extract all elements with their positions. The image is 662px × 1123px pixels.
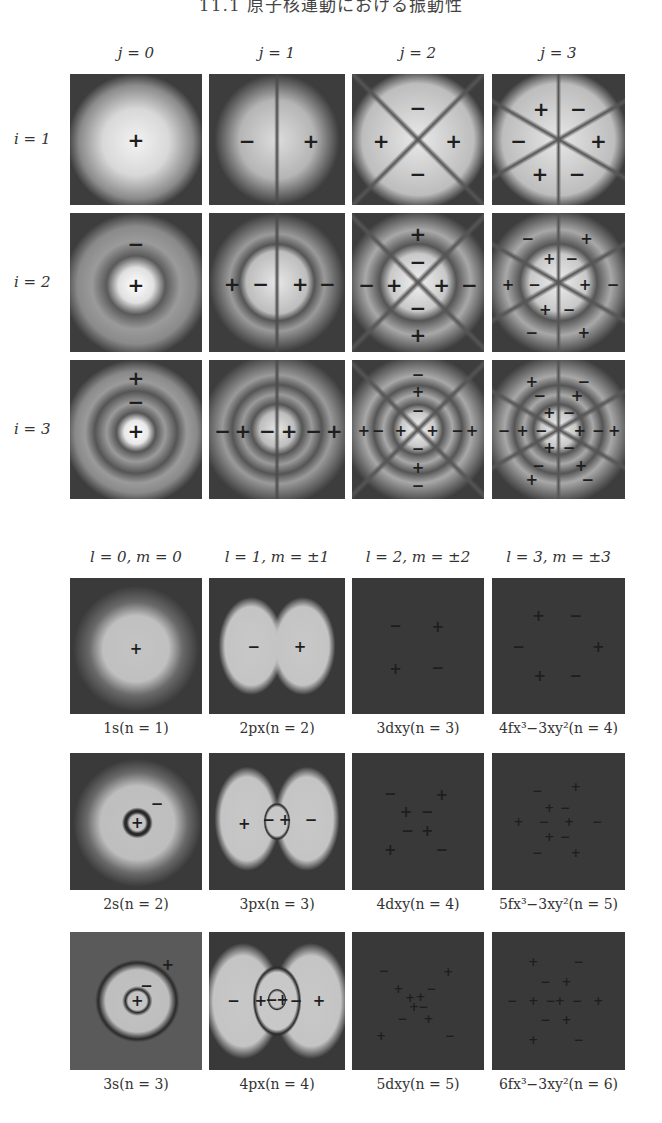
plus-sign: + [426, 423, 439, 438]
mode-panel-i1-j0: + [70, 74, 202, 205]
plus-sign: + [276, 992, 289, 1007]
plus-sign: + [412, 461, 425, 476]
minus-sign: − [573, 956, 583, 968]
plus-sign: + [564, 816, 574, 828]
minus-sign: − [445, 1030, 455, 1042]
plus-sign: + [412, 384, 425, 399]
plus-sign: + [516, 423, 529, 438]
plus-sign: + [384, 843, 397, 858]
row-label-i2: i = 2 [14, 273, 64, 291]
plus-sign: + [395, 423, 408, 438]
orbital-panel-2-2: −++−+++−−++− [352, 932, 484, 1070]
column-label-lm3: l = 3, m = ±3 [486, 548, 631, 566]
plus-sign: + [543, 440, 556, 455]
minus-sign: − [397, 1013, 407, 1025]
plus-sign: + [435, 788, 448, 803]
orbital-panel-2-1: −+−+−+ [209, 932, 345, 1070]
plus-sign: + [528, 956, 538, 968]
minus-sign: − [379, 965, 389, 977]
plus-sign: + [544, 831, 554, 843]
orbital-panel-0-0: + [70, 578, 202, 714]
plus-sign: + [544, 802, 554, 814]
orbital-panel-0-1: −+ [209, 578, 345, 714]
mode-panel-i1-j3: +−−++− [492, 74, 625, 205]
minus-sign: − [418, 1001, 428, 1013]
orbital-pattern [352, 578, 484, 714]
minus-sign: − [539, 816, 549, 828]
minus-sign: − [570, 99, 587, 119]
mode-panel-i2-j2: +−−++−−+ [352, 213, 484, 352]
minus-sign: − [410, 298, 427, 318]
minus-sign: − [528, 278, 541, 293]
orbital-pattern [352, 753, 484, 890]
plus-sign: + [593, 995, 603, 1007]
plus-sign: + [539, 303, 552, 318]
orbital-caption: 5dxy(n = 5) [343, 1076, 493, 1092]
mode-panel-i3-j0: +−+ [70, 360, 202, 499]
plus-sign: + [532, 609, 545, 624]
minus-sign: − [252, 274, 269, 294]
minus-sign: − [563, 303, 576, 318]
minus-sign: − [532, 847, 542, 859]
page-header: 11.1 原子核運動における振動性 [0, 0, 662, 16]
plus-sign: + [238, 817, 251, 832]
plus-sign: + [577, 325, 590, 340]
column-label-j3: j = 3 [492, 44, 625, 62]
column-label-j0: j = 0 [70, 44, 202, 62]
minus-sign: − [358, 275, 375, 295]
plus-sign: + [128, 421, 145, 441]
minus-sign: − [535, 423, 548, 438]
minus-sign: − [532, 785, 542, 797]
row-label-i3: i = 3 [14, 420, 64, 438]
plus-sign: + [128, 130, 145, 150]
plus-sign: + [528, 1034, 538, 1046]
orbital-panel-2-3: +−−+−+−+−+−++− [492, 932, 625, 1070]
orbital-panel-0-2: −++− [352, 578, 484, 714]
plus-sign: + [224, 274, 241, 294]
orbital-caption: 3dxy(n = 3) [343, 720, 493, 736]
plus-sign: + [502, 278, 515, 293]
plus-sign: + [571, 389, 584, 404]
minus-sign: − [305, 813, 318, 828]
minus-sign: − [248, 640, 261, 655]
mode-panel-i2-j3: −++−+−+−+−−+ [492, 213, 625, 352]
minus-sign: − [607, 278, 620, 293]
minus-sign: − [560, 831, 570, 843]
minus-sign: − [227, 994, 240, 1009]
plus-sign: + [543, 405, 556, 420]
plus-sign: + [443, 966, 453, 978]
plus-sign: + [531, 164, 548, 184]
column-label-lm2: l = 2, m = ±2 [346, 548, 490, 566]
plus-sign: + [128, 275, 145, 295]
plus-sign: + [393, 983, 403, 995]
minus-sign: − [239, 131, 256, 151]
minus-sign: − [426, 983, 436, 995]
plus-sign: + [534, 668, 547, 683]
plus-sign: + [592, 640, 605, 655]
minus-sign: − [592, 423, 605, 438]
minus-sign: − [451, 423, 464, 438]
minus-sign: − [563, 405, 576, 420]
minus-sign: − [410, 98, 427, 118]
orbital-caption: 1s(n = 1) [61, 720, 211, 736]
plus-sign: + [292, 274, 309, 294]
minus-sign: − [560, 802, 570, 814]
plus-sign: + [561, 976, 571, 988]
column-label-lm0: l = 0, m = 0 [64, 548, 208, 566]
minus-sign: − [581, 472, 594, 487]
plus-sign: + [579, 278, 592, 293]
minus-sign: − [412, 479, 425, 494]
mode-panel-i3-j1: −+−+−+ [209, 360, 345, 499]
minus-sign: − [566, 251, 579, 266]
plus-sign: + [130, 641, 143, 656]
plus-sign: + [131, 815, 144, 830]
plus-sign: + [432, 619, 445, 634]
orbital-caption: 3s(n = 3) [61, 1076, 211, 1092]
minus-sign: − [421, 804, 434, 819]
mode-panel-i2-j0: −+ [70, 213, 202, 352]
orbital-caption: 2px(n = 2) [202, 720, 352, 736]
mode-panel-i1-j2: −++− [352, 74, 484, 205]
orbital-pattern [209, 74, 345, 205]
minus-sign: − [412, 441, 425, 456]
plus-sign: + [358, 423, 371, 438]
